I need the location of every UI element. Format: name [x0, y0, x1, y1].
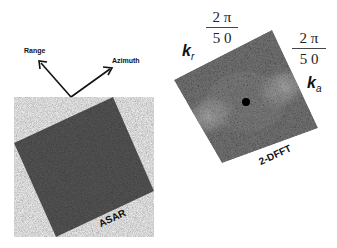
- kr-fraction-numerator: 2 π: [213, 9, 232, 25]
- kr-label: kr: [182, 42, 194, 62]
- azimuth-label: Azimuth: [112, 57, 140, 64]
- kr-fraction-denominator: 5 0: [213, 30, 232, 46]
- ka-fraction-numerator: 2 π: [300, 30, 319, 46]
- fraction-bar: [206, 27, 238, 28]
- ka-subscript: a: [316, 83, 322, 94]
- diagram-graphics: [0, 0, 337, 248]
- ka-fraction-denominator: 5 0: [300, 51, 319, 67]
- direction-arrows: [39, 61, 112, 97]
- ka-fraction: 2 π 5 0: [292, 30, 326, 67]
- diagram-canvas: Range Azimuth ASAR 2-DFFT 2 π 5 0 2 π 5 …: [0, 0, 337, 248]
- kr-subscript: r: [191, 51, 194, 62]
- asar-image: [14, 97, 154, 237]
- ka-label: ka: [307, 74, 321, 94]
- dc-center-dot: [242, 98, 250, 106]
- range-label: Range: [24, 47, 45, 54]
- kr-fraction: 2 π 5 0: [206, 9, 238, 46]
- fraction-bar: [292, 48, 326, 49]
- ka-symbol: k: [307, 74, 316, 91]
- kr-symbol: k: [182, 42, 191, 59]
